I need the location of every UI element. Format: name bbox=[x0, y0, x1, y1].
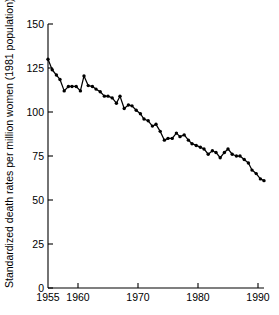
y-axis-label: Standardized death rates per million wom… bbox=[3, 0, 15, 288]
y-tick-label: 50 bbox=[32, 194, 44, 206]
data-point bbox=[187, 138, 190, 141]
data-point bbox=[226, 147, 229, 150]
data-point bbox=[250, 168, 253, 171]
data-point bbox=[139, 112, 142, 115]
line-chart: Standardized death rates per million wom… bbox=[0, 0, 279, 315]
data-point bbox=[166, 137, 169, 140]
data-point bbox=[142, 117, 145, 120]
data-point bbox=[171, 137, 174, 140]
x-tick-label: 1970 bbox=[126, 291, 150, 303]
data-point bbox=[219, 156, 222, 159]
x-tick-label: 1990 bbox=[246, 291, 270, 303]
data-point bbox=[178, 135, 181, 138]
data-point bbox=[135, 109, 138, 112]
data-point bbox=[82, 74, 85, 77]
data-point bbox=[70, 85, 73, 88]
data-point bbox=[111, 96, 114, 99]
data-point bbox=[238, 154, 241, 157]
data-point bbox=[55, 73, 58, 76]
data-point bbox=[235, 154, 238, 157]
data-point bbox=[195, 144, 198, 147]
data-point bbox=[67, 85, 70, 88]
data-point bbox=[58, 78, 61, 81]
x-tick-label: 1955 bbox=[36, 291, 60, 303]
y-tick-label: 75 bbox=[32, 150, 44, 162]
data-point bbox=[99, 90, 102, 93]
data-point bbox=[183, 133, 186, 136]
data-point bbox=[123, 107, 126, 110]
data-point bbox=[51, 68, 54, 71]
series-line bbox=[48, 59, 264, 180]
data-point bbox=[207, 153, 210, 156]
data-point bbox=[127, 103, 130, 106]
data-point bbox=[46, 58, 49, 61]
data-point bbox=[255, 172, 258, 175]
data-point bbox=[62, 89, 65, 92]
data-point bbox=[118, 94, 121, 97]
y-tick-label: 100 bbox=[26, 106, 44, 118]
y-tick-label: 25 bbox=[32, 238, 44, 250]
data-point bbox=[151, 124, 154, 127]
data-point bbox=[154, 123, 157, 126]
data-point bbox=[159, 130, 162, 133]
x-axis-ticks: 19551960197019801990 bbox=[36, 283, 270, 303]
data-point bbox=[175, 131, 178, 134]
data-point bbox=[87, 84, 90, 87]
data-point bbox=[262, 179, 265, 182]
data-point bbox=[94, 87, 97, 90]
x-tick-label: 1980 bbox=[186, 291, 210, 303]
data-point bbox=[231, 153, 234, 156]
data-point bbox=[75, 85, 78, 88]
data-point bbox=[243, 158, 246, 161]
y-tick-label: 150 bbox=[26, 18, 44, 30]
data-point bbox=[130, 104, 133, 107]
y-tick-label: 125 bbox=[26, 62, 44, 74]
x-tick-label: 1960 bbox=[66, 291, 90, 303]
data-point bbox=[91, 85, 94, 88]
data-point bbox=[190, 142, 193, 145]
data-point bbox=[103, 94, 106, 97]
data-series bbox=[46, 58, 265, 183]
data-point bbox=[199, 146, 202, 149]
data-point bbox=[163, 138, 166, 141]
data-point bbox=[79, 89, 82, 92]
data-point bbox=[115, 102, 118, 105]
data-point bbox=[106, 94, 109, 97]
data-point bbox=[202, 147, 205, 150]
data-point bbox=[223, 151, 226, 154]
chart-figure: Standardized death rates per million wom… bbox=[0, 0, 279, 315]
data-point bbox=[247, 161, 250, 164]
data-point bbox=[147, 119, 150, 122]
data-point bbox=[259, 177, 262, 180]
data-point bbox=[214, 151, 217, 154]
data-point bbox=[211, 149, 214, 152]
